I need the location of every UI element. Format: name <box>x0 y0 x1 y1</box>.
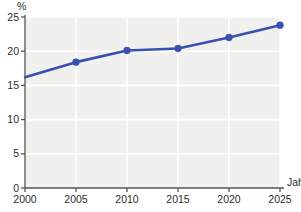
x-axis-tick-label: 2020 <box>217 193 241 205</box>
plot-background <box>25 17 280 188</box>
x-axis-tick-label: 2000 <box>13 193 37 205</box>
y-axis-tick-label: 5 <box>13 147 19 159</box>
line-chart: 0510152025 200020052010201520202025 % Ja… <box>0 0 301 212</box>
x-axis-tick-label: 2015 <box>166 193 190 205</box>
y-axis-tick-label: 25 <box>7 11 19 23</box>
y-axis-tick-label: 20 <box>7 45 19 57</box>
y-axis-title: % <box>17 0 26 12</box>
data-point-marker <box>73 59 80 66</box>
y-axis-tick-label: 0 <box>13 182 19 194</box>
x-axis-tick-labels: 200020052010201520202025 <box>13 193 292 205</box>
data-point-marker <box>226 34 233 41</box>
y-axis-tick-labels: 0510152025 <box>7 11 19 194</box>
data-point-marker <box>124 47 131 54</box>
x-axis-title: Jahr <box>287 176 301 188</box>
chart-container: 0510152025 200020052010201520202025 % Ja… <box>0 0 301 212</box>
x-axis-tick-label: 2010 <box>115 193 139 205</box>
y-axis-tick-label: 10 <box>7 113 19 125</box>
x-axis-tick-label: 2005 <box>64 193 88 205</box>
data-point-marker <box>277 22 284 29</box>
data-point-marker <box>175 45 182 52</box>
x-axis-tick-label: 2025 <box>268 193 292 205</box>
y-axis-tick-label: 15 <box>7 79 19 91</box>
